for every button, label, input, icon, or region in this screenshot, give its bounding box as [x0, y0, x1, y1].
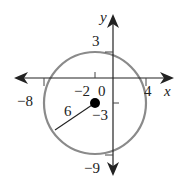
radius-label: 6 — [64, 103, 72, 119]
center-y-label: −3 — [92, 107, 108, 123]
origin-label: 0 — [98, 83, 106, 99]
radius-line — [55, 103, 95, 130]
tick-label-top: 3 — [92, 33, 100, 49]
tick-label-right: 4 — [144, 83, 152, 99]
center-x-label: −2 — [74, 83, 90, 99]
x-axis-label: x — [163, 83, 171, 99]
tick-label-left: −8 — [17, 93, 33, 109]
tick-label-bottom: −9 — [84, 160, 100, 176]
y-axis-label: y — [98, 9, 107, 25]
diagram-canvas: y x 0 3 −9 −8 4 −2 −3 6 — [0, 0, 183, 181]
